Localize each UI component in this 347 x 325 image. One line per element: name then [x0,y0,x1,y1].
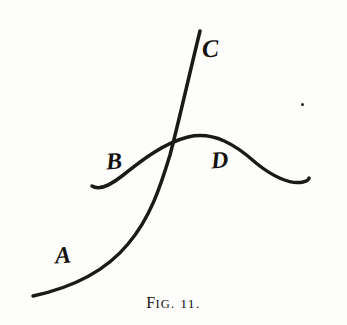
figure-page: A B C D FIG.11. [0,0,347,325]
curve-label-a: A [54,242,72,267]
caption-prefix-rest: IG. [156,297,176,311]
curve-humped-bd [92,136,309,188]
curve-label-c: C [201,35,219,61]
curve-label-b: B [105,148,123,173]
caption-prefix-cap: F [146,294,155,311]
figure-illustration [0,0,347,325]
curve-label-d: D [210,147,229,172]
ink-speck [301,103,304,106]
caption-number: 11. [180,296,201,311]
figure-caption: FIG.11. [0,294,347,312]
